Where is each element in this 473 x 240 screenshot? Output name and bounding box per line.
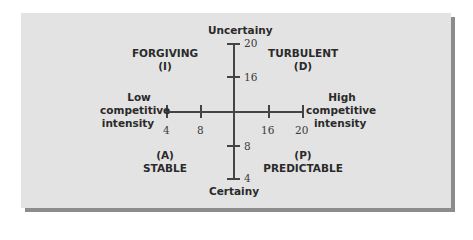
quadrant-forgiving-name: FORGIVING — [130, 47, 200, 60]
vertical-tick-label-4: 4 — [244, 172, 251, 184]
horizontal-axis — [166, 111, 302, 113]
horizontal-tick-20 — [302, 105, 304, 118]
left-label-line-2: competitive — [100, 104, 164, 117]
quadrant-turbulent-name: TURBULENT — [268, 47, 338, 60]
quadrant-predictable: (P) PREDICTABLE — [261, 149, 345, 175]
vertical-tick-8 — [227, 145, 240, 147]
quadrant-stable-code: (A) — [130, 149, 200, 162]
vertical-tick-label-8: 8 — [244, 140, 251, 152]
left-label-line-1: Low — [100, 91, 164, 104]
quadrant-stable: (A) STABLE — [130, 149, 200, 175]
vertical-axis-bottom-label: Certainy — [208, 185, 260, 198]
horizontal-tick-label-4: 4 — [163, 124, 170, 136]
vertical-tick-4 — [227, 178, 240, 180]
horizontal-tick-label-8: 8 — [197, 124, 204, 136]
right-label-line-2: competitive — [306, 104, 366, 117]
vertical-tick-16 — [227, 76, 240, 78]
vertical-tick-label-16: 16 — [244, 71, 257, 83]
quadrant-stable-name: STABLE — [130, 162, 200, 175]
right-label-line-3: intensity — [306, 117, 366, 130]
vertical-tick-label-20: 20 — [244, 37, 257, 49]
horizontal-tick-16 — [268, 105, 270, 118]
quadrant-forgiving: FORGIVING (I) — [130, 47, 200, 73]
horizontal-axis-left-label: Low competitive intensity — [100, 91, 164, 130]
horizontal-tick-8 — [200, 105, 202, 118]
quadrant-predictable-code: (P) — [261, 149, 345, 162]
vertical-axis-top-label: Uncertainy — [208, 24, 260, 37]
quadrant-predictable-name: PREDICTABLE — [261, 162, 345, 175]
quadrant-turbulent: TURBULENT (D) — [268, 47, 338, 73]
quadrant-forgiving-code: (I) — [130, 60, 200, 73]
left-label-line-3: intensity — [100, 117, 164, 130]
right-label-line-1: High — [306, 91, 366, 104]
quadrant-turbulent-code: (D) — [268, 60, 338, 73]
horizontal-tick-label-16: 16 — [261, 124, 274, 136]
vertical-tick-20 — [227, 43, 240, 45]
horizontal-axis-right-label: High competitive intensity — [306, 91, 366, 130]
